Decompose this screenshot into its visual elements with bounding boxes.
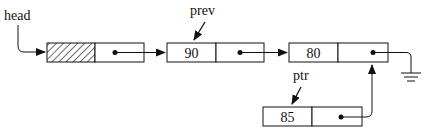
linked-list-diagram: head prev 90 80 ptr 85 xyxy=(0,0,433,135)
node-value: 90 xyxy=(185,46,199,61)
ptr-label: ptr xyxy=(293,68,309,83)
head-arrow xyxy=(18,25,45,52)
head-label: head xyxy=(4,8,30,23)
prev-pointer-arrow xyxy=(194,22,205,40)
ground-null-icon xyxy=(401,73,421,81)
prev-label: prev xyxy=(190,3,215,18)
ptr-pointer-arrow xyxy=(292,87,301,104)
node-value: 85 xyxy=(281,110,295,125)
node-value: 80 xyxy=(307,46,321,61)
